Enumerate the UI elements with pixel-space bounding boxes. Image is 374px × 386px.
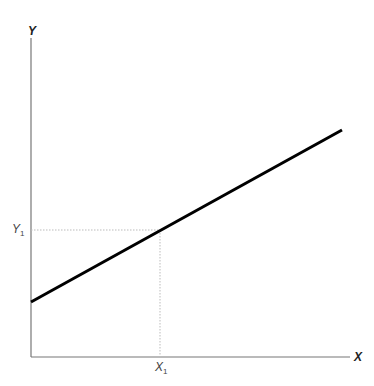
data-line [31,130,342,302]
y1-main: Y [12,222,20,236]
y1-tick-label: Y1 [12,222,24,238]
x1-tick-label: X1 [155,360,167,376]
x1-main: X [155,360,163,374]
x-axis-label: X [354,350,362,364]
chart-canvas [0,0,374,386]
y-axis-label: Y [28,24,36,38]
x1-sub: 1 [163,367,167,376]
y1-sub: 1 [20,229,24,238]
